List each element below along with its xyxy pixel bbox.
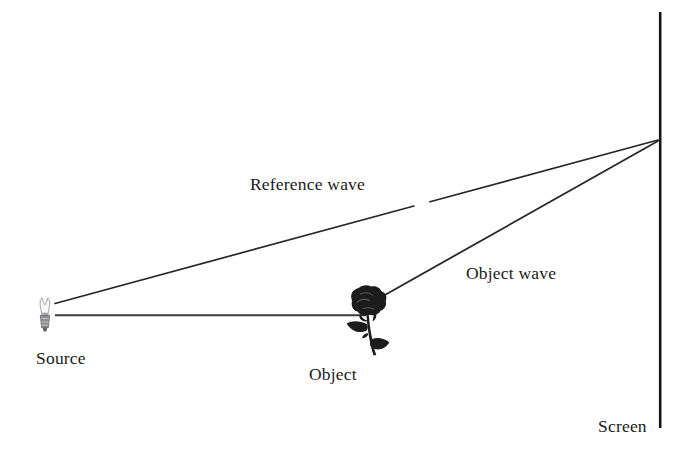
- light-bulb-icon: [40, 298, 50, 331]
- rose-leaf-left: [347, 321, 368, 332]
- reference-wave-label: Reference wave: [250, 176, 365, 194]
- bulb-glass: [40, 300, 50, 314]
- source-label: Source: [36, 350, 86, 368]
- diagram-canvas: [0, 0, 691, 458]
- rose-icon: [347, 285, 390, 355]
- screen-label: Screen: [598, 418, 647, 436]
- bulb-base: [40, 315, 49, 327]
- object-wave-label: Object wave: [466, 265, 556, 283]
- reference-wave-ray-segment-2: [430, 140, 658, 202]
- object-label: Object: [309, 366, 357, 384]
- holography-diagram: Source Object Screen Reference wave Obje…: [0, 0, 691, 458]
- bulb-contact-tip: [43, 328, 48, 332]
- rose-thorn: [362, 333, 368, 338]
- rose-leaf-right: [370, 338, 389, 349]
- rose-stem: [366, 315, 376, 356]
